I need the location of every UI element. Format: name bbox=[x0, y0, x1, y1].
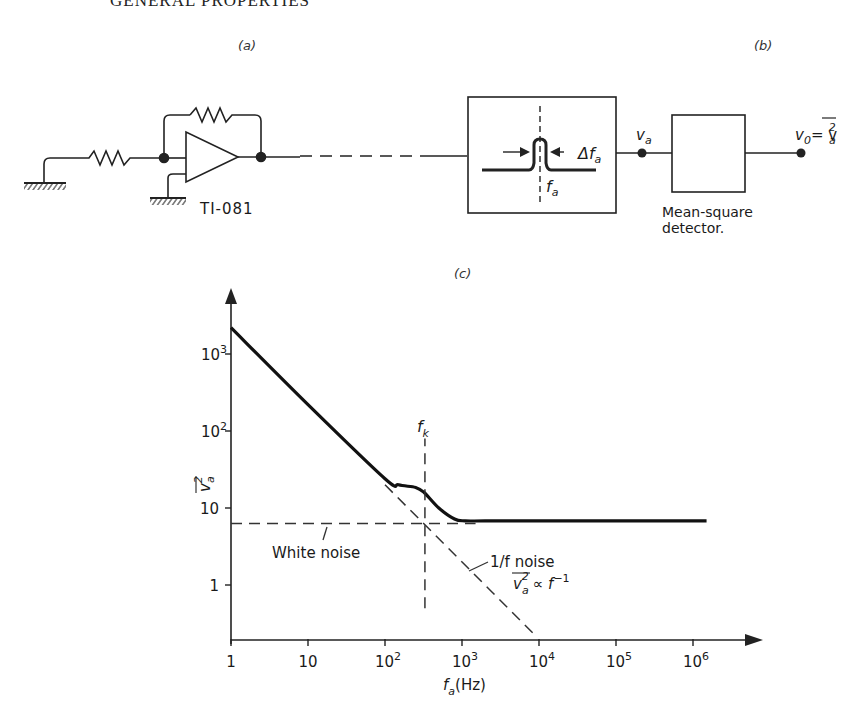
x-tick-label: 103 bbox=[452, 650, 478, 671]
white-noise-label: White noise bbox=[272, 544, 360, 562]
node-va bbox=[638, 149, 647, 158]
detector-label-line2: detector. bbox=[662, 220, 724, 236]
x-tick-label: 102 bbox=[375, 650, 401, 671]
amplifier-circuit bbox=[24, 108, 467, 205]
series-total-noise bbox=[231, 328, 707, 521]
va-label: va bbox=[636, 126, 652, 147]
y-tick-label: 10 bbox=[200, 500, 219, 518]
input-resistor bbox=[85, 151, 164, 165]
x-axis-label: fa(Hz) bbox=[443, 676, 486, 698]
fk-label: fk bbox=[417, 417, 430, 440]
one-over-f-leader bbox=[469, 562, 488, 571]
noise-spectrum-chart: 110102103104105106110102103fkWhite noise… bbox=[192, 288, 763, 698]
opamp-label: TI-081 bbox=[199, 200, 254, 218]
detector-label-line1: Mean-square bbox=[662, 204, 753, 220]
x-tick-label: 106 bbox=[683, 650, 709, 671]
x-axis-arrow-icon bbox=[745, 634, 763, 646]
junction-node-input bbox=[160, 154, 169, 163]
output-label: v0= va2 bbox=[795, 121, 837, 147]
white-noise-leader bbox=[323, 527, 327, 540]
y-tick-label: 103 bbox=[201, 343, 227, 364]
center-frequency-label: fa bbox=[546, 177, 559, 199]
ground-symbol-opamp bbox=[150, 198, 186, 205]
x-tick-label: 1 bbox=[226, 653, 236, 671]
feedback-resistor bbox=[190, 108, 255, 122]
y-tick-label: 1 bbox=[209, 577, 219, 595]
one-over-f-label: 1/f noise bbox=[490, 553, 555, 571]
junction-node-output bbox=[257, 153, 266, 162]
figure-canvas: TI-081 Δfa fa va v0= va2 Mean-square det… bbox=[0, 0, 866, 705]
x-tick-label: 104 bbox=[529, 650, 555, 671]
y-axis-arrow-icon bbox=[225, 288, 237, 304]
proportionality-label: va2∝ f−1 bbox=[513, 570, 570, 597]
node-output bbox=[797, 149, 806, 158]
bandwidth-label: Δfa bbox=[576, 144, 602, 166]
mean-square-detector-box bbox=[672, 115, 745, 192]
ground-symbol-input bbox=[24, 158, 85, 190]
x-tick-label: 10 bbox=[298, 653, 317, 671]
opamp-triangle bbox=[186, 132, 238, 182]
y-tick-label: 102 bbox=[201, 420, 227, 441]
x-tick-label: 105 bbox=[606, 650, 632, 671]
